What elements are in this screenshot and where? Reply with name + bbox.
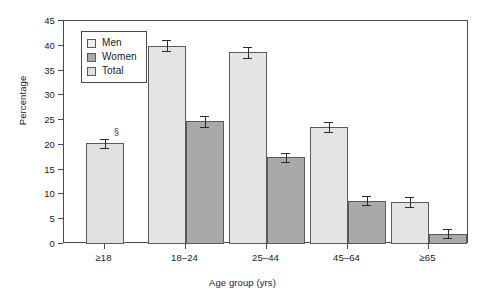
y-axis-tick-label: 10 <box>25 188 55 199</box>
legend-item-total: Total <box>87 64 137 78</box>
legend-item-women: Women <box>87 50 137 64</box>
bar-men-3 <box>310 127 348 244</box>
legend-item-men: Men <box>87 36 137 50</box>
error-bar-cap-bottom <box>281 162 290 163</box>
bar-women-1 <box>186 121 224 244</box>
error-bar-cap-bottom <box>443 238 452 239</box>
y-axis-title: Percentage <box>17 31 28 171</box>
error-bar-cap-bottom <box>162 51 171 52</box>
error-bar-cap-bottom <box>362 205 371 206</box>
error-bar <box>167 40 168 51</box>
error-bar-cap-top <box>405 197 414 198</box>
bar-men-1 <box>148 46 186 244</box>
y-axis-tick-label: 35 <box>25 64 55 75</box>
legend-swatch-men-icon <box>87 39 96 48</box>
error-bar <box>286 153 287 162</box>
x-axis-title: Age group (yrs) <box>0 277 485 288</box>
y-axis-tick-label: 25 <box>25 114 55 125</box>
y-axis-tick-label: 40 <box>25 39 55 50</box>
x-axis-tick-label: ≥65 <box>419 252 435 263</box>
plot-frame: § MenWomenTotal <box>63 20 468 243</box>
x-axis-tick-label: ≥18 <box>95 252 111 263</box>
error-bar-cap-top <box>324 122 333 123</box>
bar-men-2 <box>229 52 267 244</box>
error-bar-cap-top <box>362 196 371 197</box>
error-bar <box>248 47 249 58</box>
x-axis-tick-label: 18–24 <box>171 252 198 263</box>
error-bar-cap-top <box>281 153 290 154</box>
error-bar <box>410 197 411 207</box>
error-bar-cap-top <box>162 40 171 41</box>
bar-women-2 <box>267 157 305 244</box>
error-bar <box>105 139 106 148</box>
error-bar-cap-top <box>100 139 109 140</box>
y-axis-tick-label: 20 <box>25 138 55 149</box>
error-bar-cap-bottom <box>243 58 252 59</box>
error-bar <box>448 229 449 237</box>
bar-women-3 <box>348 201 386 244</box>
y-axis-tick-label: 0 <box>25 238 55 249</box>
y-axis-tick-label: 30 <box>25 89 55 100</box>
error-bar-cap-top <box>243 47 252 48</box>
legend-label: Total <box>102 65 124 77</box>
chart-legend: MenWomenTotal <box>81 31 147 83</box>
error-bar-cap-top <box>443 229 452 230</box>
y-axis-tick <box>58 243 63 244</box>
y-axis-tick-label: 45 <box>25 15 55 26</box>
error-bar-cap-bottom <box>324 132 333 133</box>
error-bar-cap-bottom <box>405 207 414 208</box>
y-axis-tick-label: 15 <box>25 163 55 174</box>
error-bar-cap-top <box>200 116 209 117</box>
legend-label: Women <box>102 51 137 63</box>
error-bar <box>367 196 368 204</box>
error-bar-cap-bottom <box>100 148 109 149</box>
bar-men-4 <box>391 202 429 244</box>
error-bar <box>205 116 206 127</box>
legend-swatch-total-icon <box>87 67 96 76</box>
y-axis-tick-label: 5 <box>25 213 55 224</box>
error-bar <box>329 122 330 132</box>
legend-swatch-women-icon <box>87 53 96 62</box>
error-bar-cap-bottom <box>200 127 209 128</box>
x-axis-tick-label: 45–64 <box>333 252 360 263</box>
bar-total-0 <box>86 143 124 244</box>
legend-label: Men <box>102 37 122 49</box>
footnote-marker: § <box>114 127 119 137</box>
x-axis-tick-label: 25–44 <box>252 252 279 263</box>
bar-chart-figure: Percentage 051015202530354045 ≥1818–2425… <box>0 0 485 301</box>
